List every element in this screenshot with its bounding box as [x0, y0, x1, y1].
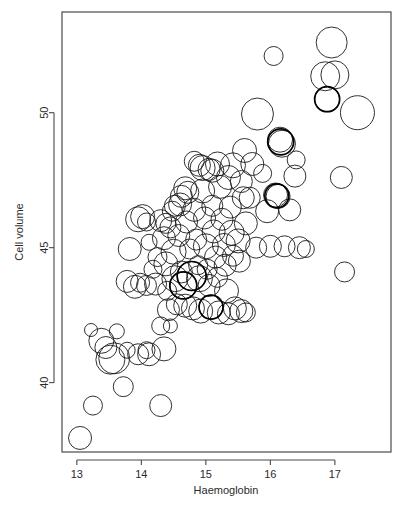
bubble-point	[264, 47, 283, 66]
bubble-point	[109, 324, 124, 339]
bubble-point	[95, 337, 117, 359]
bubble-point	[158, 281, 177, 300]
x-tick-label: 15	[200, 468, 212, 480]
y-axis-title: Cell volume	[13, 203, 25, 260]
bubble-point	[230, 171, 252, 193]
bubble-point	[297, 241, 314, 258]
bubble-point	[214, 254, 236, 276]
bubble-point	[226, 229, 250, 253]
bubble-point	[222, 245, 243, 266]
bubble-point	[113, 377, 133, 397]
bubble-chart-figure: 1314151617 404550 Haemoglobin Cell volum…	[0, 0, 409, 508]
bubble-point	[223, 297, 246, 320]
plot-canvas: 1314151617 404550 Haemoglobin Cell volum…	[0, 0, 409, 508]
y-tick-label: 40	[38, 377, 50, 389]
bubble-point	[69, 426, 92, 449]
bubble-point	[163, 319, 177, 333]
bubble-point	[138, 343, 161, 366]
bubble-point	[128, 344, 149, 365]
bubble-point	[152, 337, 176, 361]
bubble-point-emphasized	[268, 129, 294, 155]
plot-frame	[62, 12, 391, 452]
bubble-layer	[69, 27, 375, 449]
bubble-point	[150, 395, 172, 417]
bubble-point	[230, 300, 253, 323]
bubble-point	[118, 238, 141, 261]
bubble-point	[148, 248, 167, 267]
y-axis: 404550	[38, 107, 54, 389]
bubble-point	[288, 237, 310, 259]
bubble-point	[207, 301, 230, 324]
x-tick-label: 16	[264, 468, 276, 480]
bubble-point	[116, 270, 138, 292]
bubble-point	[241, 98, 273, 130]
bubble-point	[316, 27, 347, 58]
bubble-point	[233, 138, 257, 162]
bubble-point	[162, 201, 182, 221]
bubble-point	[340, 96, 374, 130]
bubble-point	[198, 158, 220, 180]
y-tick-label: 45	[38, 242, 50, 254]
bubble-point	[152, 317, 170, 335]
x-axis-title: Haemoglobin	[194, 484, 259, 496]
x-tick-label: 17	[329, 468, 341, 480]
x-tick-label: 13	[71, 468, 83, 480]
bubble-point	[157, 299, 179, 321]
bubble-point	[330, 166, 352, 188]
x-axis: 1314151617	[71, 460, 341, 480]
bubble-point-emphasized	[170, 272, 197, 299]
bubble-point	[198, 274, 220, 296]
bubble-point	[287, 151, 305, 169]
bubble-point	[83, 396, 102, 415]
bubble-point	[254, 164, 272, 182]
x-tick-label: 14	[135, 468, 147, 480]
bubble-point	[211, 208, 233, 230]
bubble-point	[246, 237, 267, 258]
bubble-point	[241, 152, 264, 175]
y-tick-label: 50	[38, 107, 50, 119]
bubble-point	[205, 246, 227, 268]
bubble-point	[335, 262, 355, 282]
bubble-point	[279, 199, 301, 221]
bubble-point	[274, 236, 295, 257]
